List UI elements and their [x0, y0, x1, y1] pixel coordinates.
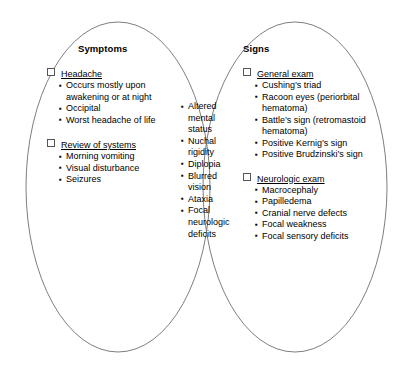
item-list: Cushing’s triad Racoon eyes (periorbital…	[243, 80, 395, 161]
list-item: Cushing’s triad	[255, 80, 395, 92]
list-item: Visual disturbance	[59, 163, 165, 175]
list-item: Papilledema	[255, 196, 395, 208]
list-item: Occurs mostly upon awakening or at night	[59, 80, 165, 103]
item-list: Occurs mostly upon awakening or at night…	[47, 80, 165, 126]
checkbox-icon[interactable]	[243, 68, 251, 76]
overlap-region: Altered mental status Nuchal rigidity Di…	[181, 101, 225, 240]
list-item: Focal weakness	[255, 219, 395, 231]
signs-region: Signs General exam Cushing’s triad Racoo…	[243, 43, 395, 242]
group-header: Headache	[47, 68, 165, 80]
group-label: General exam	[257, 69, 314, 79]
list-item: Positive Brudzinski’s sign	[255, 149, 395, 161]
checkbox-icon[interactable]	[47, 139, 55, 147]
list-item: Ataxia	[181, 194, 225, 206]
group-header: Neurologic exam	[243, 173, 395, 185]
group-label: Neurologic exam	[257, 174, 325, 184]
group-header: General exam	[243, 68, 395, 80]
symptoms-group-headache: Headache Occurs mostly upon awakening or…	[47, 68, 165, 126]
list-item: Battle’s sign (retromastoid hematoma)	[255, 115, 395, 138]
checkbox-icon[interactable]	[47, 68, 55, 76]
list-item: Cranial nerve defects	[255, 208, 395, 220]
list-item: Worst headache of life	[59, 115, 165, 127]
list-item: Nuchal rigidity	[181, 136, 225, 159]
symptoms-group-review-of-systems: Review of systems Morning vomiting Visua…	[47, 139, 165, 186]
signs-title: Signs	[243, 43, 395, 54]
symptoms-region: Symptoms Headache Occurs mostly upon awa…	[47, 43, 165, 186]
list-item: Positive Kernig’s sign	[255, 138, 395, 150]
list-item: Altered mental status	[181, 101, 225, 136]
item-list: Macrocephaly Papilledema Cranial nerve d…	[243, 185, 395, 243]
list-item: Focal neurologic deficits	[181, 205, 225, 240]
list-item: Macrocephaly	[255, 185, 395, 197]
item-list: Altered mental status Nuchal rigidity Di…	[181, 101, 225, 240]
symptoms-title: Symptoms	[47, 43, 165, 54]
signs-group-general-exam: General exam Cushing’s triad Racoon eyes…	[243, 68, 395, 161]
list-item: Blurred vision	[181, 171, 225, 194]
signs-group-neurologic-exam: Neurologic exam Macrocephaly Papilledema…	[243, 173, 395, 243]
list-item: Focal sensory deficits	[255, 231, 395, 243]
item-list: Morning vomiting Visual disturbance Seiz…	[47, 151, 165, 186]
list-item: Diplopia	[181, 159, 225, 171]
list-item: Morning vomiting	[59, 151, 165, 163]
venn-diagram-canvas: Symptoms Headache Occurs mostly upon awa…	[0, 0, 405, 367]
list-item: Racoon eyes (periorbital hematoma)	[255, 92, 395, 115]
list-item: Occipital	[59, 103, 165, 115]
group-label: Review of systems	[61, 140, 136, 150]
list-item: Seizures	[59, 174, 165, 186]
group-label: Headache	[61, 69, 102, 79]
checkbox-icon[interactable]	[243, 173, 251, 181]
group-header: Review of systems	[47, 139, 165, 151]
